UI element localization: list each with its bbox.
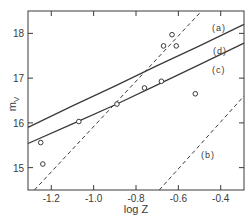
data-point	[174, 44, 179, 49]
data-point	[170, 32, 175, 37]
data-point	[193, 91, 198, 96]
y-axis-label-sub: V	[12, 96, 21, 102]
curve-b	[159, 96, 244, 190]
chart: -1.2-1.0-0.8-0.6-0.4 15161718 (a)(b)(c)(…	[0, 0, 252, 219]
svg-text:mV: mV	[6, 96, 21, 111]
y-axis-label-main: m	[6, 102, 18, 111]
x-axis-label: log Z	[124, 203, 149, 215]
curve-label-d: (d)	[213, 46, 227, 56]
y-tick-label: 17	[13, 73, 25, 84]
x-tick-label: -1.2	[43, 193, 61, 204]
data-point	[159, 79, 164, 84]
data-points	[38, 32, 197, 166]
curve-c	[28, 43, 244, 143]
y-tick-label: 15	[13, 163, 25, 174]
y-tick-label: 16	[13, 118, 25, 129]
data-point	[41, 162, 46, 167]
data-point	[142, 86, 147, 91]
curve-label-b: (b)	[201, 150, 215, 160]
curve-label-c: (c)	[212, 65, 226, 75]
x-tick-label: -0.6	[170, 193, 188, 204]
data-point	[161, 44, 166, 49]
data-point	[38, 140, 43, 145]
x-tick-label: -0.4	[212, 193, 230, 204]
curve-a	[34, 11, 201, 190]
data-point	[77, 119, 82, 124]
curve-label-a: (a)	[212, 23, 226, 33]
x-axis-ticks: -1.2-1.0-0.8-0.6-0.4	[43, 11, 230, 204]
plot-frame	[28, 11, 244, 190]
model-curves	[28, 11, 244, 190]
y-tick-label: 18	[13, 28, 25, 39]
y-axis-label: mV	[6, 96, 21, 111]
curve-d	[28, 24, 244, 127]
data-point	[115, 102, 120, 107]
x-tick-label: -1.0	[85, 193, 103, 204]
